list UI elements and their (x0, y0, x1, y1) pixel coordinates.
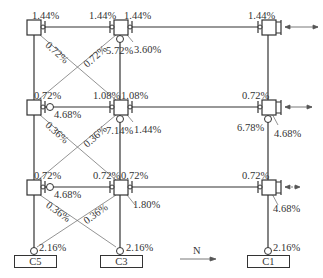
label-c1-base: 2.16% (273, 243, 300, 254)
structural-diagram: 1.44% 1.44% 1.44% 5.72% 3.60% 1.44% 0.72… (0, 0, 323, 278)
label-r3-right-diag: 4.68% (273, 204, 300, 215)
label-r3-left-valve: 4.68% (54, 190, 81, 201)
label-r2-right-top: 0.72% (242, 91, 269, 102)
foundation-c5: C5 (14, 255, 57, 268)
north-arrow-icon (180, 255, 216, 263)
label-r2-mid-left-top: 1.08% (93, 91, 120, 102)
foundation-c1: C1 (247, 255, 290, 268)
label-r1-left-top: 1.44% (32, 11, 59, 22)
label-r1-mid-below: 5.72% (106, 46, 133, 57)
label-r3-right-top: 0.72% (242, 171, 269, 182)
label-r3-mid-diag: 1.80% (133, 200, 160, 211)
label-r1-right-top: 1.44% (248, 11, 275, 22)
label-r2-mid-diag: 1.44% (134, 125, 161, 136)
label-r1-mid-left-top: 1.44% (89, 11, 116, 22)
label-c3-base: 2.16% (126, 243, 153, 254)
label-r2-mid-below: 7.14% (106, 126, 133, 137)
label-r2-right-diag: 4.68% (274, 129, 301, 140)
label-r2-right-below: 6.78% (237, 123, 264, 134)
label-r3-mid-left-top: 0.72% (93, 171, 120, 182)
label-c5-base: 2.16% (39, 243, 66, 254)
label-r2-left-valve: 4.68% (54, 110, 81, 121)
label-r1-mid-diag: 3.60% (134, 45, 161, 56)
label-r1-mid-right-top: 1.44% (124, 11, 151, 22)
label-r2-mid-right-top: 1.08% (121, 91, 148, 102)
foundation-c3: C3 (100, 255, 143, 268)
label-r3-mid-right-top: 0.72% (121, 171, 148, 182)
label-r2-left-top: 0.72% (34, 91, 61, 102)
label-r3-left-top: 0.72% (34, 171, 61, 182)
